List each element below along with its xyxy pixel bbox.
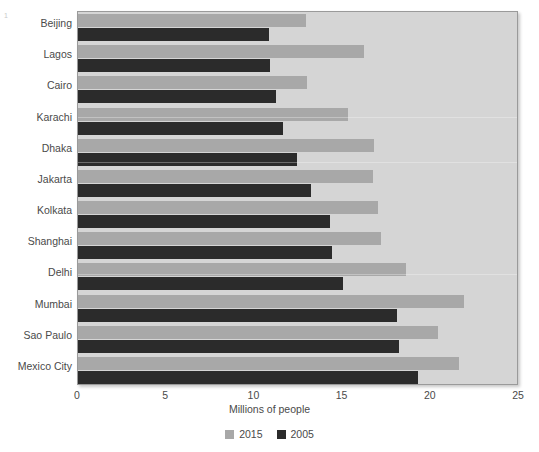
x-tick-label-15: 15 (336, 389, 348, 401)
bar-cairo-2015 (78, 76, 307, 89)
category-label-delhi: Delhi (0, 266, 72, 278)
legend-item-2015: 2015 (225, 428, 262, 440)
legend-swatch-2015 (225, 430, 234, 439)
legend-label-2005: 2005 (291, 428, 314, 440)
plot-area (77, 11, 518, 385)
x-tick-label-25: 25 (512, 389, 524, 401)
bar-beijing-2015 (78, 14, 306, 27)
category-label-mumbai: Mumbai (0, 298, 72, 310)
category-label-mexico-city: Mexico City (0, 360, 72, 372)
bar-cairo-2005 (78, 90, 276, 103)
bar-shanghai-2005 (78, 246, 332, 259)
bar-mumbai-2005 (78, 309, 397, 322)
bar-kolkata-2015 (78, 201, 378, 214)
bar-lagos-2015 (78, 45, 364, 58)
x-axis: 0510152025 (77, 386, 518, 387)
category-label-shanghai: Shanghai (0, 235, 72, 247)
category-label-beijing: Beijing (0, 17, 72, 29)
category-label-karachi: Karachi (0, 111, 72, 123)
plot-inner (78, 12, 517, 384)
category-label-lagos: Lagos (0, 48, 72, 60)
scan-artifact-line (78, 162, 517, 163)
bar-mumbai-2015 (78, 295, 464, 308)
bar-beijing-2005 (78, 28, 269, 41)
scan-artifact-line (78, 274, 517, 275)
bar-jakarta-2015 (78, 170, 373, 183)
x-tick-label-20: 20 (424, 389, 436, 401)
category-label-dhaka: Dhaka (0, 142, 72, 154)
bar-sao-paulo-2015 (78, 326, 438, 339)
category-axis-labels: BeijingLagosCairoKarachiDhakaJakartaKolk… (0, 11, 72, 385)
category-label-sao-paulo: Sao Paulo (0, 329, 72, 341)
category-label-kolkata: Kolkata (0, 204, 72, 216)
bar-chart-figure: 1 BeijingLagosCairoKarachiDhakaJakartaKo… (0, 0, 539, 452)
chart-legend: 2015 2005 (0, 428, 539, 440)
bar-mexico-city-2015 (78, 357, 459, 370)
bar-sao-paulo-2005 (78, 340, 399, 353)
x-tick-label-10: 10 (248, 389, 260, 401)
bar-delhi-2005 (78, 277, 343, 290)
bar-jakarta-2005 (78, 184, 311, 197)
legend-label-2015: 2015 (239, 428, 262, 440)
bar-mexico-city-2005 (78, 371, 418, 384)
category-label-cairo: Cairo (0, 79, 72, 91)
x-tick-label-0: 0 (74, 389, 80, 401)
bar-dhaka-2005 (78, 153, 297, 166)
bar-shanghai-2015 (78, 232, 381, 245)
bar-kolkata-2005 (78, 215, 330, 228)
bar-dhaka-2015 (78, 139, 374, 152)
legend-item-2005: 2005 (277, 428, 314, 440)
scan-artifact-line (78, 117, 517, 118)
bar-karachi-2015 (78, 108, 348, 121)
bar-karachi-2005 (78, 122, 283, 135)
legend-swatch-2005 (277, 430, 286, 439)
x-axis-title: Millions of people (0, 403, 539, 415)
category-label-jakarta: Jakarta (0, 173, 72, 185)
x-tick-label-5: 5 (162, 389, 168, 401)
bar-lagos-2005 (78, 59, 270, 72)
